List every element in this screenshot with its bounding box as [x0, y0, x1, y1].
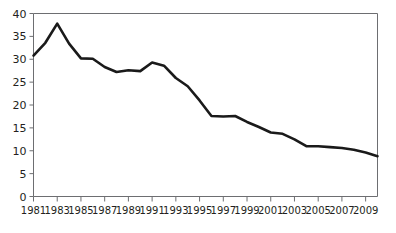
- y-tick-label: 0: [20, 191, 27, 204]
- x-tick-label: 2007: [329, 205, 354, 216]
- x-tick-label: 2001: [258, 205, 283, 216]
- x-tick-label: 1997: [211, 205, 236, 216]
- y-tick-label: 15: [13, 122, 27, 135]
- x-tick-label: 1993: [163, 205, 188, 216]
- plot-frame: [34, 14, 378, 197]
- x-tick-label: 1989: [116, 205, 141, 216]
- x-tick-label: 1981: [21, 205, 46, 216]
- x-tick-label: 2009: [353, 205, 378, 216]
- x-tick-label: 1995: [187, 205, 212, 216]
- plot-frame-border: [34, 14, 378, 197]
- y-tick-label: 5: [20, 168, 27, 181]
- x-tick-label: 1985: [68, 205, 93, 216]
- x-tick-label: 1999: [234, 205, 259, 216]
- chart-figure: 0510152025303540 19811983198519871989199…: [0, 0, 396, 233]
- series-1-line: [34, 24, 378, 157]
- y-tick-label: 25: [13, 76, 27, 89]
- x-axis-ticks: 1981198319851987198919911993199519971999…: [21, 197, 379, 216]
- y-tick-label: 40: [13, 8, 27, 21]
- x-tick-label: 2003: [282, 205, 307, 216]
- x-tick-label: 1991: [139, 205, 164, 216]
- y-tick-label: 20: [13, 99, 27, 112]
- y-tick-label: 10: [13, 145, 27, 158]
- x-tick-label: 1983: [44, 205, 69, 216]
- y-tick-label: 30: [13, 53, 27, 66]
- line-chart: 0510152025303540 19811983198519871989199…: [0, 0, 396, 233]
- x-tick-label: 1987: [92, 205, 117, 216]
- y-tick-label: 35: [13, 30, 27, 43]
- y-axis-ticks: 0510152025303540: [13, 8, 34, 204]
- data-series-group: [34, 24, 378, 157]
- x-tick-label: 2005: [305, 205, 330, 216]
